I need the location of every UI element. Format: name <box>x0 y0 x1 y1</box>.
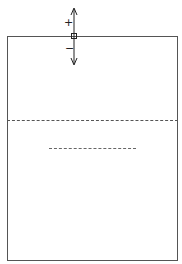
plus-sign: + <box>64 17 73 28</box>
minus-sign: − <box>65 43 74 54</box>
inner-dashed-line <box>49 148 136 149</box>
double-arrow-icon[interactable] <box>0 0 182 70</box>
fold-line <box>7 120 178 121</box>
